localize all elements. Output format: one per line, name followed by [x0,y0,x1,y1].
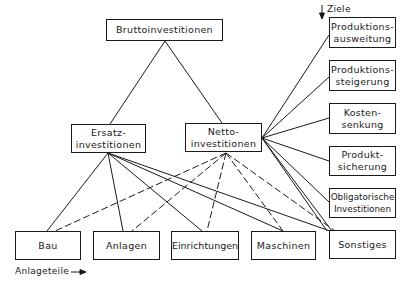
parts-label: Anlageteile [15,266,69,276]
goal-box-cost-reduction: Kosten- senkung [329,103,396,134]
goals-label: Ziele [327,4,351,14]
goal-box-production-increase: Produktions- steigerung [329,60,396,91]
replacement-investment-box: Ersatz- investitionen [71,124,146,153]
net-investment-box: Netto- investitionen [185,123,262,152]
part-box-equipment: Einrichtungen [171,231,239,260]
goal-box-mandatory-investments: Obligatorische Investitionen [329,188,396,218]
gross-investment-box: Bruttoinvestitionen [106,19,223,41]
investment-diagram: Bruttoinvestitionen Ersatz- investitione… [0,0,408,286]
goal-box-production-expansion: Produktions- ausweitung [329,17,396,48]
part-box-plants: Anlagen [93,231,160,260]
part-box-other: Sonstiges [329,230,396,259]
part-box-machines: Maschinen [251,231,316,260]
goal-box-product-security: Produkt- sicherung [329,146,396,176]
part-box-construction: Bau [15,231,81,260]
